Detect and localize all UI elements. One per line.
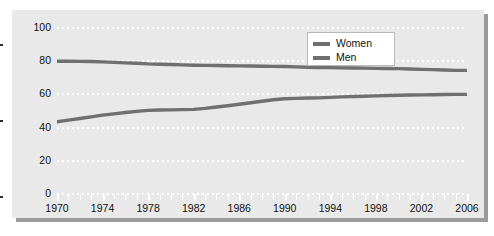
chart-container: 020406080100 197019741978198219861990199… (0, 0, 494, 236)
x-axis-tick-label: 2006 (455, 202, 478, 214)
x-axis-minor-tick (342, 194, 343, 200)
x-axis-minor-tick (125, 194, 126, 200)
x-axis-minor-tick (182, 194, 183, 200)
x-axis-major-tick (148, 194, 150, 201)
x-axis-tick-label: 1994 (319, 202, 342, 214)
x-axis-minor-tick (387, 194, 388, 200)
x-axis-tick-label: 1998 (364, 202, 387, 214)
series-line-men (57, 61, 467, 70)
legend-label-women: Women (336, 38, 372, 49)
x-axis-minor-tick (205, 194, 206, 200)
series-plot (57, 28, 467, 194)
x-axis-ticks (57, 194, 467, 202)
x-axis-major-tick (194, 194, 196, 201)
x-axis-minor-tick (273, 194, 274, 200)
x-axis-minor-tick (433, 194, 434, 200)
y-axis-tick-label: 20 (21, 155, 51, 165)
x-axis-minor-tick (114, 194, 115, 200)
edge-artifact-top (0, 44, 3, 46)
y-axis-labels: 020406080100 (17, 28, 51, 194)
x-axis-tick-label: 1990 (273, 202, 296, 214)
x-axis-minor-tick (137, 194, 138, 200)
x-axis-major-tick (421, 194, 423, 201)
x-axis-minor-tick (319, 194, 320, 200)
x-axis-major-tick (57, 194, 59, 201)
series-line-women (57, 94, 467, 121)
x-axis-tick-label: 1974 (91, 202, 114, 214)
y-axis-tick-label: 0 (21, 188, 51, 198)
x-axis-minor-tick (262, 194, 263, 200)
x-axis-major-tick (239, 194, 241, 201)
legend-item-women: Women (313, 37, 389, 50)
legend-item-men: Men (313, 51, 389, 64)
chart-panel: 020406080100 197019741978198219861990199… (12, 10, 484, 218)
edge-artifact-bottom (0, 196, 3, 198)
x-axis-minor-tick (296, 194, 297, 200)
x-axis-minor-tick (91, 194, 92, 200)
x-axis-minor-tick (251, 194, 252, 200)
y-axis-tick-label: 40 (21, 122, 51, 132)
x-axis-major-tick (467, 194, 469, 201)
x-axis-tick-label: 1970 (45, 202, 68, 214)
y-axis-tick-label: 100 (21, 22, 51, 32)
x-axis-minor-tick (216, 194, 217, 200)
x-axis-minor-tick (410, 194, 411, 200)
legend-label-men: Men (336, 52, 356, 63)
chart-legend: Women Men (307, 32, 395, 66)
x-axis-major-tick (285, 194, 287, 201)
x-axis-tick-label: 1982 (182, 202, 205, 214)
x-axis-major-tick (330, 194, 332, 201)
edge-artifact-middle (0, 120, 3, 122)
legend-swatch-men (313, 56, 330, 60)
y-axis-tick-label: 60 (21, 88, 51, 98)
x-axis-tick-label: 1978 (136, 202, 159, 214)
y-axis-tick-label: 80 (21, 55, 51, 65)
x-axis-minor-tick (228, 194, 229, 200)
x-axis-minor-tick (160, 194, 161, 200)
x-axis-tick-label: 1986 (228, 202, 251, 214)
x-axis-minor-tick (444, 194, 445, 200)
x-axis-minor-tick (399, 194, 400, 200)
x-axis-minor-tick (308, 194, 309, 200)
x-axis-minor-tick (80, 194, 81, 200)
x-axis-minor-tick (68, 194, 69, 200)
x-axis-minor-tick (171, 194, 172, 200)
x-axis-major-tick (103, 194, 105, 201)
x-axis-tick-label: 2002 (410, 202, 433, 214)
x-axis-major-tick (376, 194, 378, 201)
x-axis-labels: 1970197419781982198619901994199820022006 (12, 202, 484, 218)
legend-swatch-women (313, 42, 330, 46)
x-axis-minor-tick (353, 194, 354, 200)
x-axis-minor-tick (365, 194, 366, 200)
x-axis-minor-tick (456, 194, 457, 200)
